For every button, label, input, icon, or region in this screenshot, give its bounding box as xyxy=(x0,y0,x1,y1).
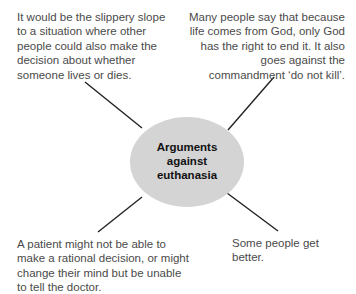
connector-top-right xyxy=(228,77,274,130)
argument-slippery-slope: It would be the slippery slope to a situ… xyxy=(17,10,177,82)
mind-map-diagram: It would be the slippery slope to a situ… xyxy=(0,0,356,294)
connector-bottom-left xyxy=(98,197,142,232)
center-title-line3: euthanasia xyxy=(130,168,244,182)
argument-rational-decision: A patient might not be able to make a ra… xyxy=(17,237,192,294)
argument-religious: Many people say that because life comes … xyxy=(185,10,345,82)
connector-top-left xyxy=(85,82,142,128)
center-title-line1: Arguments xyxy=(130,140,244,154)
connector-bottom-right xyxy=(227,193,278,231)
center-title: Arguments against euthanasia xyxy=(130,140,244,182)
argument-people-get-better: Some people get better. xyxy=(232,236,352,265)
center-title-line2: against xyxy=(130,154,244,168)
